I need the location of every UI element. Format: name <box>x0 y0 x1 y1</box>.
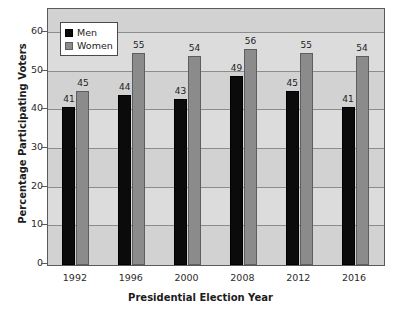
legend: Men Women <box>60 22 118 56</box>
y-axis-tick-mark <box>41 186 47 187</box>
gridline <box>48 225 384 226</box>
bar-women-1996 <box>132 53 145 266</box>
bar-women-2012 <box>300 53 313 266</box>
x-axis-tick-label: 2016 <box>331 272 377 283</box>
legend-label-men: Men <box>77 27 97 38</box>
bar-men-2016 <box>342 107 355 265</box>
gridline <box>48 71 384 72</box>
bar-value-label: 54 <box>184 43 206 53</box>
gridline <box>48 187 384 188</box>
bar-men-2000 <box>174 99 187 265</box>
bar-value-label: 45 <box>72 78 94 88</box>
bar-value-label: 55 <box>128 40 150 50</box>
bar-women-2000 <box>188 56 201 265</box>
y-axis-tick-label: 30 <box>17 142 43 152</box>
background-band <box>48 109 384 148</box>
x-axis-title: Presidential Election Year <box>0 292 401 303</box>
x-axis-tick-label: 1996 <box>108 272 154 283</box>
y-axis-tick-label: 10 <box>17 219 43 229</box>
x-axis-tick-label: 2012 <box>275 272 321 283</box>
y-axis-tick-label: 50 <box>17 65 43 75</box>
bar-women-1992 <box>76 91 89 265</box>
bar-value-label: 54 <box>351 43 373 53</box>
y-axis-tick-mark <box>41 147 47 148</box>
legend-item-women: Women <box>65 39 113 52</box>
bar-value-label: 56 <box>239 36 261 46</box>
y-axis-tick-mark <box>41 263 47 264</box>
bar-women-2008 <box>244 49 257 265</box>
legend-label-women: Women <box>77 40 113 51</box>
bar-men-1996 <box>118 95 131 265</box>
y-axis-tick-label: 40 <box>17 103 43 113</box>
bar-men-1992 <box>62 107 75 265</box>
y-axis-title: Percentage Participating Voters <box>17 24 28 244</box>
legend-swatch-women-icon <box>65 42 73 50</box>
y-axis-tick-mark <box>41 31 47 32</box>
gridline <box>48 148 384 149</box>
bar-men-2008 <box>230 76 243 265</box>
y-axis-tick-label: 0 <box>17 258 43 268</box>
background-band <box>48 187 384 226</box>
y-axis-tick-mark <box>41 108 47 109</box>
bar-chart: Percentage Participating Voters 41454455… <box>0 0 401 313</box>
bar-value-label: 55 <box>295 40 317 50</box>
bar-men-2012 <box>286 91 299 265</box>
y-axis-tick-label: 60 <box>17 26 43 36</box>
x-axis-tick-label: 2000 <box>164 272 210 283</box>
x-axis-tick-label: 1992 <box>52 272 98 283</box>
bar-women-2016 <box>356 56 369 265</box>
y-axis-tick-label: 20 <box>17 181 43 191</box>
y-axis-tick-mark <box>41 224 47 225</box>
y-axis-tick-mark <box>41 70 47 71</box>
x-axis-tick-label: 2008 <box>219 272 265 283</box>
legend-item-men: Men <box>65 26 113 39</box>
legend-swatch-men-icon <box>65 29 73 37</box>
gridline <box>48 109 384 110</box>
